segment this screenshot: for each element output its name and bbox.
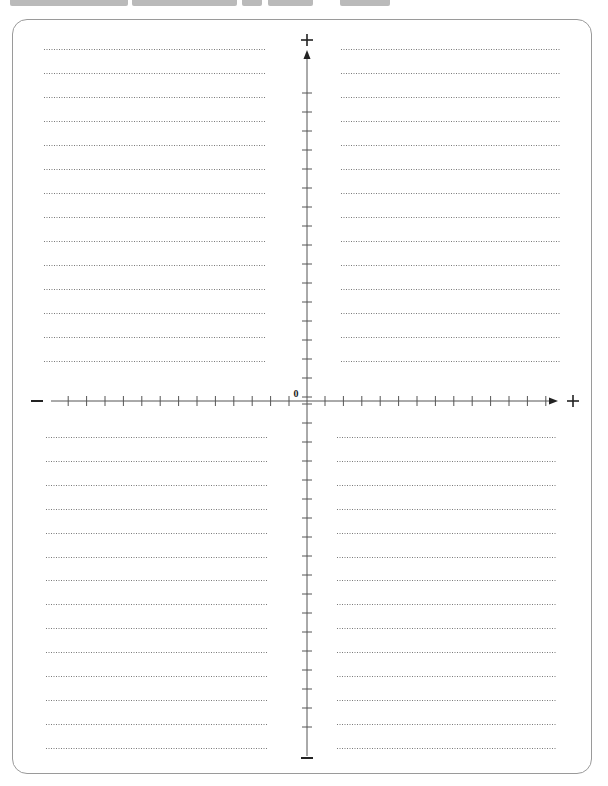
axes xyxy=(51,50,558,756)
y-axis-arrow-icon xyxy=(304,50,311,59)
axis-labels: 0 xyxy=(31,34,579,758)
x-positive-plus-icon xyxy=(567,395,579,407)
origin-label: 0 xyxy=(294,388,299,399)
x-axis-arrow-icon xyxy=(549,398,558,405)
coordinate-plane: 0 xyxy=(0,0,608,786)
writing-lines xyxy=(44,50,561,749)
y-positive-plus-icon xyxy=(301,34,313,46)
